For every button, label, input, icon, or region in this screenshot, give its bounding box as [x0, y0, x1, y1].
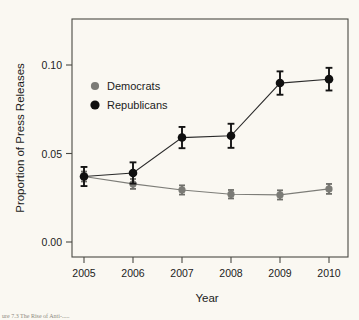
line-path-democrats: [84, 177, 329, 195]
y-tick-label-000: 0.00: [42, 236, 63, 248]
data-point-democrats: [227, 191, 234, 198]
data-point-republicans: [276, 79, 285, 88]
figure-container: 0.10 0.05 0.00 2005 2006 2007 2008 2009 …: [0, 0, 359, 320]
chart-canvas: 0.10 0.05 0.00 2005 2006 2007 2008 2009 …: [0, 0, 359, 320]
legend-label-republicans: Republicans: [107, 99, 168, 111]
x-tick-label-2007: 2007: [170, 267, 194, 279]
data-point-republicans: [80, 172, 89, 181]
legend-marker-republicans: [90, 100, 99, 109]
y-tick-label-005: 0.05: [42, 148, 63, 160]
x-tick-label-2009: 2009: [268, 267, 292, 279]
series-points-democrats: [80, 172, 332, 200]
data-point-democrats: [178, 186, 185, 193]
x-axis-ticks: [84, 257, 329, 263]
x-tick-label-2010: 2010: [317, 267, 341, 279]
data-point-republicans: [129, 169, 138, 178]
data-point-republicans: [325, 75, 334, 84]
y-tick-label-010: 0.10: [42, 59, 63, 71]
y-axis-title: Proportion of Press Releases: [14, 63, 26, 213]
data-point-democrats: [276, 191, 283, 198]
series-line-democrats: [84, 177, 329, 195]
y-axis-ticks: [66, 65, 72, 242]
plot-frame: [72, 19, 348, 257]
data-point-democrats: [325, 185, 332, 192]
legend-label-democrats: Democrats: [107, 80, 161, 92]
x-tick-label-2005: 2005: [72, 267, 96, 279]
x-tick-label-2006: 2006: [121, 267, 145, 279]
line-path-republicans: [84, 79, 329, 176]
data-point-republicans: [178, 133, 187, 142]
x-axis-title: Year: [195, 292, 218, 304]
chart-legend: Democrats Republicans: [90, 80, 168, 111]
x-tick-label-2008: 2008: [219, 267, 243, 279]
series-line-republicans: [84, 79, 329, 176]
data-point-republicans: [227, 132, 236, 141]
figure-caption: ure 7.3 The Rise of Anti-.....: [2, 313, 70, 319]
legend-marker-democrats: [91, 82, 99, 90]
